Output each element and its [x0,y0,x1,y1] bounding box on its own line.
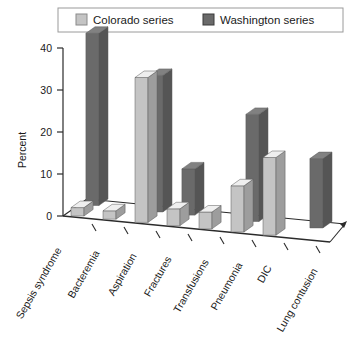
x-label-pneumonia: Pneumonia [208,260,245,312]
legend-swatch-washington [203,14,214,25]
x-tick-1 [124,227,128,234]
bar-side-dic-colorado [276,151,285,235]
bar-front-pneumonia-colorado [231,186,244,232]
chart-container: Colorado series Washington series 40 30 … [0,0,357,363]
bar-front-sepsis-syndrome-washington [86,33,99,205]
x-label-bacteremia: Bacteremia [65,248,102,300]
bar-front-transfusions-colorado [199,212,212,229]
y-axis-title: Percent [16,132,28,168]
x-tick-3 [188,234,192,241]
bar-front-aspiration-colorado [135,78,148,223]
x-tick-0 [92,224,96,231]
x-axis-front-line [63,216,330,242]
x-label-transfusions: Transfusions [170,257,210,315]
y-tick-label-30: 30 [40,84,52,96]
y-tick-label-10: 10 [40,168,52,180]
legend-label-colorado: Colorado series [93,14,174,26]
bar-side-lung-contusion-washington [323,152,332,228]
bar-front-lung-contusion-washington [310,159,323,228]
x-label-dic: DIC [254,263,274,285]
bar-chart: Colorado series Washington series 40 30 … [0,0,357,363]
legend-swatch-colorado [76,14,87,25]
y-tick-label-0: 0 [46,210,52,222]
bar-side-pneumonia-colorado [244,179,253,232]
x-axis-labels: Sepsis syndrome Bacteremia Aspiration Fr… [13,245,320,334]
legend-label-washington: Washington series [220,14,314,26]
x-tick-6 [284,243,288,250]
bar-front-sepsis-syndrome-colorado [71,208,84,216]
bar-side-aspiration-washington [163,69,172,212]
x-axis-arrow [340,221,347,228]
y-tick-label-20: 20 [40,126,52,138]
bar-side-fractures-washington [195,162,204,215]
bar-side-sepsis-syndrome-washington [99,27,108,206]
bar-front-bacteremia-colorado [103,211,116,219]
bar-front-dic-colorado [263,158,276,236]
bars-layer [71,27,332,235]
y-tick-label-40: 40 [40,42,52,54]
x-label-aspiration: Aspiration [105,251,139,298]
x-tick-4 [220,237,224,244]
x-tick-7 [316,246,320,253]
x-label-fractures: Fractures [141,254,174,298]
x-label-sepsis-syndrome: Sepsis syndrome [13,245,64,321]
x-label-lung-contusion: Lung contusion [274,266,320,334]
x-tick-5 [252,240,256,247]
x-tick-2 [156,231,160,238]
bar-front-fractures-colorado [167,209,180,226]
bar-side-aspiration-colorado [148,71,157,222]
